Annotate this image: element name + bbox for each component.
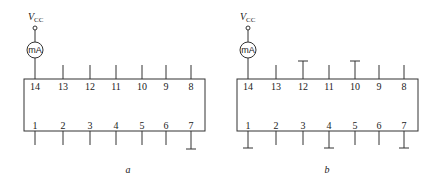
pin-label-14: 14 xyxy=(30,81,40,92)
pin-label-2: 2 xyxy=(274,120,279,131)
diagram-a: VCC mA 14 13 12 11 10 9 8 1 2 3 4 5 6 7 xyxy=(24,11,205,175)
ammeter-label: mA xyxy=(241,45,255,55)
pin-label-8: 8 xyxy=(402,81,407,92)
pin-label-12: 12 xyxy=(85,81,95,92)
pin-label-4: 4 xyxy=(327,120,332,131)
pin-label-12: 12 xyxy=(298,81,308,92)
ammeter-label: mA xyxy=(28,45,42,55)
pin-label-6: 6 xyxy=(377,120,382,131)
pin-label-13: 13 xyxy=(58,81,68,92)
caption-a: a xyxy=(126,164,131,175)
pin-label-1: 1 xyxy=(33,120,38,131)
caption-b: b xyxy=(325,164,330,175)
pin-label-9: 9 xyxy=(164,81,169,92)
pin-label-2: 2 xyxy=(61,120,66,131)
pin-label-3: 3 xyxy=(301,120,306,131)
pin-label-6: 6 xyxy=(164,120,169,131)
pin-label-7: 7 xyxy=(189,120,194,131)
vcc-label: VCC xyxy=(28,11,44,24)
pin-label-1: 1 xyxy=(246,120,251,131)
pin-label-10: 10 xyxy=(137,81,147,92)
pin-label-10: 10 xyxy=(350,81,360,92)
pin-label-5: 5 xyxy=(140,120,145,131)
ic-test-diagrams: VCC mA 14 13 12 11 10 9 8 1 2 3 4 5 6 7 xyxy=(0,0,437,185)
vcc-terminal-icon xyxy=(33,26,37,30)
vcc-label: VCC xyxy=(240,11,256,24)
pin-label-9: 9 xyxy=(377,81,382,92)
pin-label-4: 4 xyxy=(114,120,119,131)
vcc-terminal-icon xyxy=(246,26,250,30)
pin-label-5: 5 xyxy=(353,120,358,131)
pin-label-3: 3 xyxy=(88,120,93,131)
pin-label-11: 11 xyxy=(111,81,121,92)
pin-label-11: 11 xyxy=(324,81,334,92)
pin-label-8: 8 xyxy=(189,81,194,92)
pin-label-13: 13 xyxy=(271,81,281,92)
diagram-b: VCC mA 14 13 12 11 10 9 8 1 2 3 4 5 6 7 xyxy=(237,11,418,175)
pin-label-14: 14 xyxy=(243,81,253,92)
pin-label-7: 7 xyxy=(402,120,407,131)
